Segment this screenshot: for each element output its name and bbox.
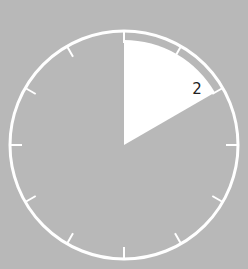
timer-clock-diagram: 2 bbox=[0, 0, 248, 269]
wedge-label: 2 bbox=[192, 80, 202, 98]
